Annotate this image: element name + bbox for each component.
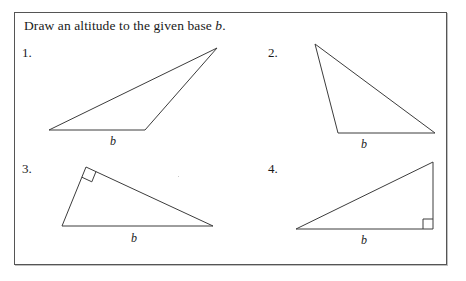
worksheet-page: Draw an altitude to the given base b. 1.… [0, 0, 466, 281]
instruction-text: Draw an altitude to the given base b. [24, 18, 226, 34]
base-label-1: b [110, 134, 116, 149]
base-label-2: b [361, 137, 367, 152]
problem-number-2: 2. [268, 45, 278, 61]
paper-speck [178, 176, 179, 177]
base-label-4: b [361, 233, 367, 248]
problem-number-1: 1. [22, 45, 32, 61]
instruction-suffix: . [222, 18, 225, 33]
worksheet-border-box [14, 12, 447, 265]
problem-number-4: 4. [268, 161, 278, 177]
problem-number-3: 3. [22, 161, 32, 177]
base-label-3: b [131, 231, 137, 246]
instruction-prefix: Draw an altitude to the given base [24, 18, 215, 33]
